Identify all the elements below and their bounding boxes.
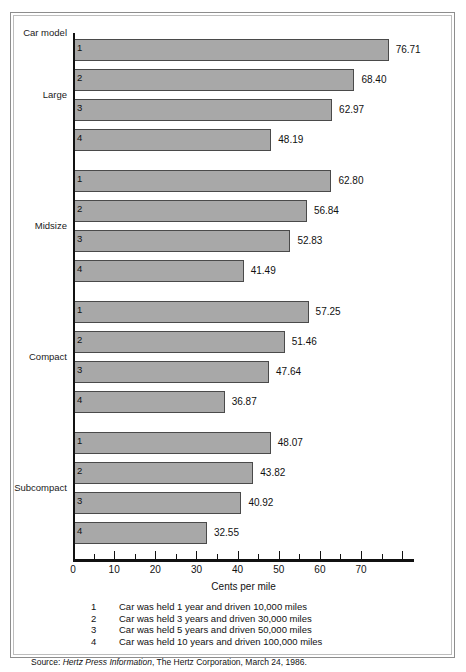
bar-model-number: 3 [77, 365, 82, 375]
bar-value-label: 41.49 [251, 266, 276, 276]
x-axis-tick-minor [135, 554, 136, 559]
legend-text-1: Car was held 1 year and driven 10,000 mi… [119, 601, 307, 612]
bar-model-number: 4 [77, 264, 82, 274]
bar-model-number: 4 [77, 526, 82, 536]
x-axis-tick-minor [258, 554, 259, 559]
bar-compact-1 [73, 301, 309, 323]
chart-plot-area: Car model176.71268.40362.97448.19Large16… [11, 13, 456, 659]
source-note: Source: Hertz Press Information, The Her… [31, 657, 307, 667]
legend-key-1: 1 [91, 601, 96, 612]
bar-value-label: 48.07 [278, 438, 303, 448]
x-axis-line [73, 559, 414, 562]
bar-value-label: 48.19 [278, 135, 303, 145]
bar-midsize-3 [73, 230, 290, 252]
bar-model-number: 4 [77, 133, 82, 143]
bar-model-number: 1 [77, 43, 82, 53]
bar-subcompact-4 [73, 522, 207, 544]
x-axis-tick-minor [217, 554, 218, 559]
x-axis-tick-major [196, 551, 197, 559]
legend-text-2: Car was held 3 years and driven 30,000 m… [119, 613, 312, 624]
bar-value-label: 36.87 [232, 397, 257, 407]
x-axis-tick-label: 20 [135, 564, 175, 575]
x-axis-tick-major [402, 551, 403, 559]
bar-value-label: 56.84 [314, 206, 339, 216]
x-axis-tick-minor [94, 554, 95, 559]
bar-model-number: 2 [77, 466, 82, 476]
legend-key-2: 2 [91, 613, 96, 624]
x-axis-tick-major [238, 551, 239, 559]
car-model-header: Car model [23, 27, 67, 38]
bar-value-label: 57.25 [316, 307, 341, 317]
x-axis-tick-label: 10 [94, 564, 134, 575]
bar-midsize-1 [73, 170, 331, 192]
x-axis-tick-major [155, 551, 156, 559]
legend-key-4: 4 [91, 636, 96, 647]
legend-key-3: 3 [91, 624, 96, 635]
bar-large-4 [73, 129, 271, 151]
bar-value-label: 62.80 [338, 176, 363, 186]
x-axis-tick-label: 70 [341, 564, 381, 575]
x-axis-tick-major [114, 551, 115, 559]
bar-large-2 [73, 69, 354, 91]
bar-value-label: 40.92 [248, 498, 273, 508]
bar-subcompact-2 [73, 462, 253, 484]
bar-model-number: 4 [77, 395, 82, 405]
bar-model-number: 3 [77, 496, 82, 506]
bar-model-number: 1 [77, 436, 82, 446]
bar-value-label: 68.40 [361, 75, 386, 85]
group-label-large: Large [43, 89, 67, 100]
bar-large-1 [73, 39, 389, 61]
bar-subcompact-1 [73, 432, 271, 454]
legend-text-4: Car was held 10 years and driven 100,000… [119, 636, 322, 647]
x-axis-tick-minor [299, 554, 300, 559]
bar-subcompact-3 [73, 492, 241, 514]
bar-midsize-4 [73, 260, 244, 282]
bar-model-number: 1 [77, 305, 82, 315]
bar-value-label: 32.55 [214, 528, 239, 538]
bar-large-3 [73, 99, 332, 121]
x-axis-tick-label: 40 [218, 564, 258, 575]
source-detail: , The Hertz Corporation, March 24, 1986. [152, 657, 307, 667]
group-label-subcompact: Subcompact [14, 482, 67, 493]
figure-frame: Car model176.71268.40362.97448.19Large16… [10, 12, 455, 658]
x-axis-tick-major [73, 551, 74, 559]
bar-value-label: 51.46 [292, 337, 317, 347]
x-axis-title: Cents per mile [53, 581, 434, 592]
bar-model-number: 2 [77, 73, 82, 83]
x-axis-tick-minor [382, 554, 383, 559]
bar-model-number: 3 [77, 234, 82, 244]
x-axis-tick-major [320, 551, 321, 559]
x-axis-tick-label: 30 [176, 564, 216, 575]
bar-value-label: 62.97 [339, 105, 364, 115]
bar-model-number: 2 [77, 204, 82, 214]
bar-model-number: 3 [77, 103, 82, 113]
legend-text-3: Car was held 5 years and driven 50,000 m… [119, 624, 312, 635]
x-axis-tick-label: 60 [300, 564, 340, 575]
bar-model-number: 1 [77, 174, 82, 184]
bar-model-number: 2 [77, 335, 82, 345]
group-label-compact: Compact [29, 351, 67, 362]
x-axis-tick-minor [176, 554, 177, 559]
group-label-midsize: Midsize [35, 220, 67, 231]
source-prefix: Source: [31, 657, 63, 667]
x-axis-tick-major [279, 551, 280, 559]
x-axis-tick-label: 0 [53, 564, 93, 575]
bar-value-label: 76.71 [396, 45, 421, 55]
bar-compact-4 [73, 391, 225, 413]
bar-value-label: 47.64 [276, 367, 301, 377]
y-axis-line [73, 33, 75, 559]
x-axis-tick-major [361, 551, 362, 559]
source-publication-title: Hertz Press Information [63, 657, 152, 667]
x-axis-tick-label: 50 [259, 564, 299, 575]
bar-value-label: 43.82 [260, 468, 285, 478]
x-axis-tick-minor [340, 554, 341, 559]
bar-compact-3 [73, 361, 269, 383]
bar-compact-2 [73, 331, 285, 353]
bar-value-label: 52.83 [297, 236, 322, 246]
bar-midsize-2 [73, 200, 307, 222]
